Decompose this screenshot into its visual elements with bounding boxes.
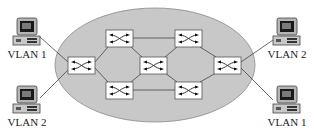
desktop-computer-icon	[13, 18, 40, 45]
host-label-left-top: VLAN 1	[2, 48, 52, 60]
host-label-right-top: VLAN 2	[262, 48, 312, 60]
host-label-left-bottom: VLAN 2	[2, 116, 52, 128]
desktop-computer-icon	[13, 86, 40, 113]
desktop-computer-icon	[273, 86, 300, 113]
switch-icon	[140, 57, 167, 74]
switch-icon	[214, 57, 241, 74]
switch-icon	[175, 82, 202, 99]
switch-icon	[175, 30, 202, 47]
host-label-right-bottom: VLAN 1	[262, 116, 312, 128]
desktop-computer-icon	[273, 18, 300, 45]
switch-icon	[68, 57, 95, 74]
switch-icon	[106, 82, 133, 99]
switch-icon	[106, 30, 133, 47]
